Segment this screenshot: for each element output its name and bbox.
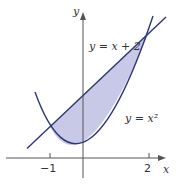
region-diagram: y x −1 2 y = x + 2 y = x²	[0, 0, 176, 184]
parabola-equation-label: y = x²	[124, 112, 158, 125]
y-axis-label: y	[72, 5, 80, 18]
x-tick-label-2: 2	[144, 162, 151, 175]
y-axis-arrow-icon	[80, 12, 86, 20]
x-tick-label-neg1: −1	[40, 162, 56, 175]
line-equation-label: y = x + 2	[88, 40, 141, 53]
x-axis-arrow-icon	[158, 155, 166, 161]
x-axis-label: x	[163, 163, 170, 176]
